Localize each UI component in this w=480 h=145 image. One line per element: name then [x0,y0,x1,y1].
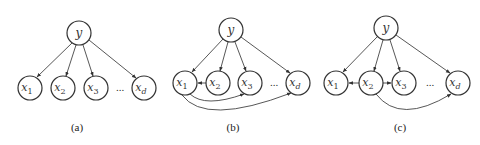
node-x2: x2 [51,76,75,100]
edge-y-x2 [66,45,76,76]
panel-b: y x1 x2 x3 ... xd (b) [173,18,310,134]
panel-c: y x1 x2 x3 ... xd (c) [324,16,470,134]
edge-y-x2 [374,40,383,71]
node-y: y [67,21,91,45]
edge-y-x2 [220,42,228,71]
edge-y-xd [396,35,450,73]
edge-x2-xd [376,94,451,110]
edge-y-xd [241,37,290,73]
caption-a: (a) [71,121,84,134]
node-y: y [374,16,398,40]
node-x1: x1 [18,76,42,100]
node-x1: x1 [173,71,197,95]
panel-a: y x1 x2 x3 ... xd (a) [18,21,156,134]
edge-y-x3 [83,45,93,76]
edge-y-x3 [390,40,400,71]
node-x3: x3 [392,71,416,95]
node-x1: x1 [324,71,348,95]
svg-text:y: y [382,21,390,35]
ellipsis: ... [270,76,279,88]
node-xd: xd [286,71,310,95]
caption-b: (b) [227,121,240,134]
edge-y-xd [89,40,136,78]
ellipsis: ... [116,81,125,93]
svg-text:y: y [75,26,83,40]
ellipsis: ... [426,76,435,88]
node-y: y [219,18,243,42]
node-x3: x3 [238,71,262,95]
edge-x1-xd [182,93,291,110]
node-xd: xd [446,71,470,95]
svg-text:y: y [227,23,235,37]
edge-y-x3 [235,42,246,71]
node-xd: xd [132,76,156,100]
edge-y-x1 [37,43,72,77]
caption-c: (c) [394,121,407,134]
node-x3: x3 [84,76,108,100]
node-x2: x2 [206,71,230,95]
edge-y-x1 [192,39,223,72]
bayesian-network-figure: y x1 x2 x3 ... xd (a) [0,0,480,145]
node-x2: x2 [359,71,383,95]
edge-y-x1 [343,37,377,72]
